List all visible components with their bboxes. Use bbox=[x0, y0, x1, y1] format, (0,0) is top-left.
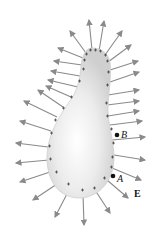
point-b-marker bbox=[115, 133, 120, 138]
conductor-diagram bbox=[0, 0, 154, 233]
label-a: A bbox=[117, 173, 123, 184]
label-b: B bbox=[121, 129, 127, 140]
label-e-field: E bbox=[134, 188, 141, 199]
point-a-marker bbox=[111, 174, 116, 179]
conductor-body bbox=[47, 48, 114, 198]
